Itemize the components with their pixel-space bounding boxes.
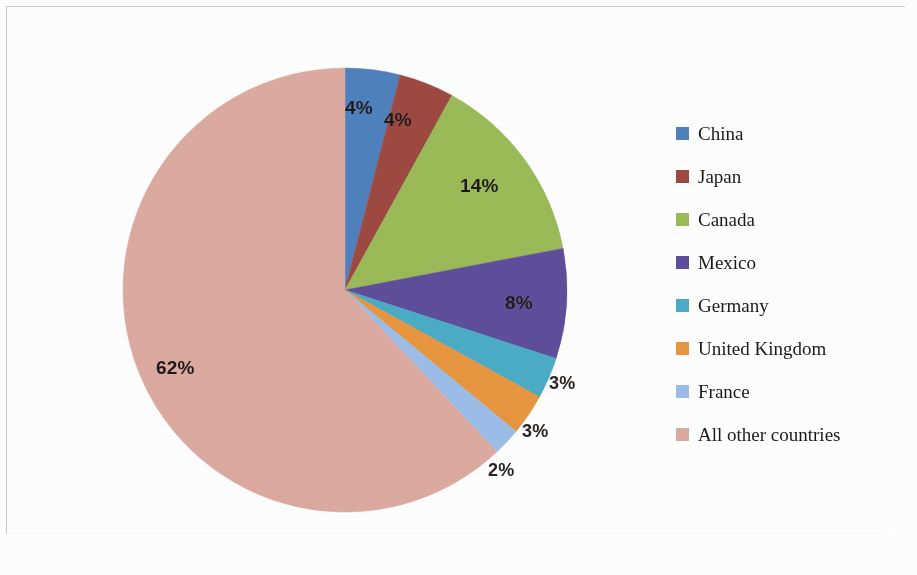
pie-label-france: 2%: [488, 460, 514, 481]
legend-swatch-icon: [676, 299, 689, 312]
legend-item-label: United Kingdom: [698, 339, 826, 358]
legend-item-germany[interactable]: Germany: [676, 284, 901, 327]
legend-item-label: Germany: [698, 296, 769, 315]
chart-legend: ChinaJapanCanadaMexicoGermanyUnited King…: [676, 112, 901, 456]
legend-swatch-icon: [676, 428, 689, 441]
legend-item-label: All other countries: [698, 425, 840, 444]
legend-item-label: France: [698, 382, 750, 401]
legend-item-label: Mexico: [698, 253, 756, 272]
legend-item-label: Japan: [698, 167, 741, 186]
legend-item-china[interactable]: China: [676, 112, 901, 155]
legend-item-label: China: [698, 124, 743, 143]
pie-slice-group: [123, 68, 567, 512]
chart-page: 4%4%14%8%3%3%2%62% ChinaJapanCanadaMexic…: [0, 0, 917, 575]
legend-item-france[interactable]: France: [676, 370, 901, 413]
legend-item-canada[interactable]: Canada: [676, 198, 901, 241]
legend-swatch-icon: [676, 385, 689, 398]
pie-label-mexico: 8%: [505, 292, 533, 314]
legend-item-united-kingdom[interactable]: United Kingdom: [676, 327, 901, 370]
pie-svg: [122, 67, 568, 513]
legend-swatch-icon: [676, 170, 689, 183]
pie-label-united-kingdom: 3%: [522, 421, 548, 442]
legend-swatch-icon: [676, 342, 689, 355]
pie-chart: 4%4%14%8%3%3%2%62%: [122, 67, 568, 513]
pie-label-germany: 3%: [549, 373, 575, 394]
pie-label-canada: 14%: [460, 175, 499, 197]
legend-item-all-other-countries[interactable]: All other countries: [676, 413, 901, 456]
legend-item-label: Canada: [698, 210, 755, 229]
legend-item-japan[interactable]: Japan: [676, 155, 901, 198]
legend-swatch-icon: [676, 127, 689, 140]
pie-label-china: 4%: [345, 97, 373, 119]
legend-swatch-icon: [676, 256, 689, 269]
legend-swatch-icon: [676, 213, 689, 226]
pie-label-japan: 4%: [384, 109, 412, 131]
legend-item-mexico[interactable]: Mexico: [676, 241, 901, 284]
pie-label-all-other-countries: 62%: [156, 357, 195, 379]
